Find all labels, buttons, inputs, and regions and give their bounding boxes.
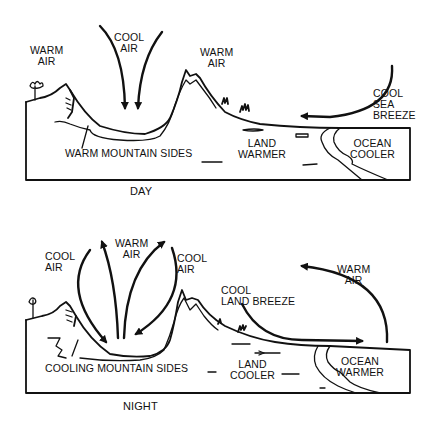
day-caption: DAY (130, 186, 152, 197)
night-land-cooler-label: LAND COOLER (230, 359, 275, 381)
day-warm-mountain-sides-label: WARM MOUNTAIN SIDES (65, 148, 192, 159)
breeze-diagram: WARM AIR COOL AIR WARM AIR COOL SEA BREE… (0, 0, 438, 423)
night-warm-air-right-label: WARM AIR (337, 264, 370, 286)
day-warm-air-left-label: WARM AIR (30, 45, 63, 67)
day-ocean-cooler-label: OCEAN COOLER (350, 138, 395, 160)
day-cool-air-label: COOL AIR (114, 32, 144, 54)
night-cool-air-left-arrow (78, 250, 106, 342)
night-cool-air-right-arrow (136, 248, 177, 334)
night-warm-air-center-label: WARM AIR (115, 238, 148, 260)
night-ocean-warmer-label: OCEAN WARMER (336, 356, 384, 378)
night-land-breeze-arrow (242, 304, 362, 341)
night-cool-air-left-label: COOL AIR (45, 251, 75, 273)
night-valley-contour (80, 298, 218, 361)
day-left-mountain (26, 84, 74, 118)
night-cooling-mountain-sides-label: COOLING MOUNTAIN SIDES (45, 363, 188, 374)
day-valley-contour (55, 80, 216, 141)
day-land-warmer-label: LAND WARMER (238, 138, 286, 160)
day-warm-air-right-label: WARM AIR (200, 47, 233, 69)
night-cool-land-breeze-label: COOL LAND BREEZE (221, 285, 295, 307)
night-caption: NIGHT (123, 401, 158, 412)
day-valley-surface (70, 70, 340, 134)
day-cool-sea-breeze-label: COOL SEA BREEZE (373, 88, 416, 121)
tree-icon (29, 298, 36, 318)
night-cool-air-right-label: COOL AIR (177, 253, 207, 275)
